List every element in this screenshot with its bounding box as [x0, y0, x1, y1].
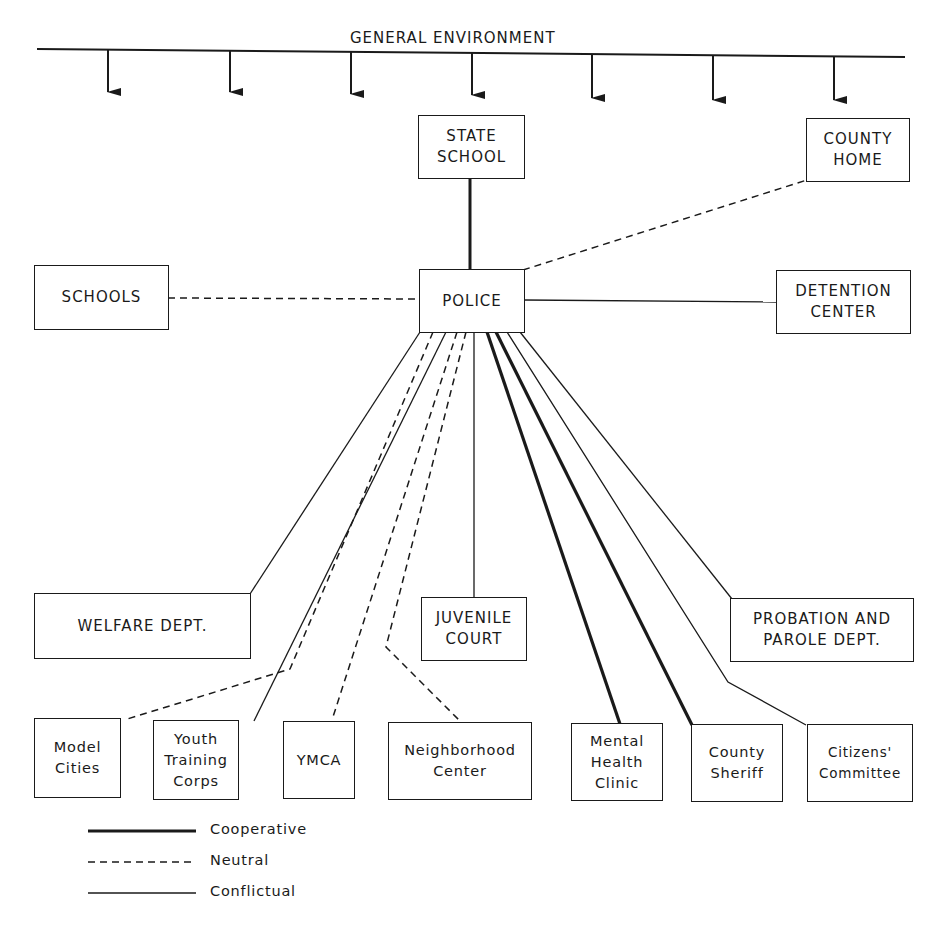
- node-youth-training-corps: Youth Training Corps: [153, 720, 239, 800]
- node-welfare-dept: WELFARE DEPT.: [34, 593, 251, 659]
- node-county-home: COUNTY HOME: [806, 118, 910, 182]
- edge-neighborhood-center: [386, 332, 466, 722]
- edge-schools: [168, 298, 419, 299]
- node-citizens-committee: Citizens' Committee: [807, 724, 913, 802]
- edge-detention-center: [524, 300, 777, 302]
- edge-welfare-dept: [250, 332, 420, 594]
- diagram-title: GENERAL ENVIRONMENT: [350, 29, 556, 47]
- node-probation-parole-dept: PROBATION AND PAROLE DEPT.: [730, 598, 914, 662]
- edge-probation-parole: [520, 332, 732, 599]
- edge-mental-health-clinic: [487, 332, 620, 724]
- node-mental-health-clinic: Mental Health Clinic: [571, 723, 663, 801]
- node-ymca: YMCA: [283, 721, 355, 799]
- edge-youth-training-corps: [254, 332, 446, 721]
- node-model-cities: Model Cities: [34, 718, 121, 798]
- node-police: POLICE: [419, 269, 525, 333]
- edge-county-sheriff: [496, 332, 692, 725]
- edge-model-cities: [124, 332, 433, 720]
- legend-cooperative-label: Cooperative: [210, 821, 307, 837]
- edge-citizens-committee: [507, 332, 806, 725]
- node-juvenile-court: JUVENILE COURT: [421, 597, 527, 661]
- node-county-sheriff: County Sheriff: [691, 724, 783, 802]
- edge-county-home: [523, 180, 807, 270]
- environment-arrows: [108, 50, 834, 100]
- node-detention-center: DETENTION CENTER: [776, 270, 911, 334]
- legend-neutral-label: Neutral: [210, 852, 269, 868]
- node-neighborhood-center: Neighborhood Center: [388, 722, 532, 800]
- node-state-school: STATE SCHOOL: [418, 115, 525, 179]
- legend-conflictual-label: Conflictual: [210, 883, 296, 899]
- node-schools: SCHOOLS: [34, 265, 169, 330]
